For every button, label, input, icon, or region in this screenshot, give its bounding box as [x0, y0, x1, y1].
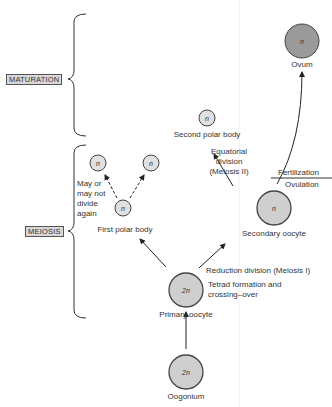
first-polar-body-ploidy: n [121, 205, 125, 212]
polar-daughter-right-ploidy: n [149, 160, 153, 167]
ovulation-label: Ovulation [285, 180, 319, 190]
primary-oocyte-ploidy: 2n [182, 287, 190, 294]
fertilization-label: Fertilization [278, 168, 319, 178]
arrow-primary-to-secondary [199, 244, 225, 268]
ovum-ploidy: n [300, 38, 304, 45]
oogenesis-diagram [0, 0, 332, 407]
oogonium-label: Oogonium [168, 392, 205, 402]
primary-oocyte-label: Primary oocyte [159, 310, 212, 320]
tetrad-note: Tetrad formation and crossing–over [208, 280, 281, 300]
oogonium-ploidy: 2n [182, 369, 190, 376]
second-polar-body-label: Second polar body [174, 130, 241, 140]
second-polar-body-ploidy: n [205, 115, 209, 122]
equatorial-division-note: Equatorial division (Meiosis II) [209, 147, 248, 177]
arrow-first-polar-to-right [130, 175, 144, 198]
secondary-oocyte-label: Secondary oocyte [242, 229, 306, 239]
maturation-bracket [68, 14, 86, 136]
polar-daughter-left-ploidy: n [96, 160, 100, 167]
arrow-first-polar-to-left [105, 175, 117, 198]
arrow-primary-to-first-polar [140, 239, 166, 267]
meiosis-bracket [68, 145, 86, 318]
secondary-oocyte-ploidy: n [272, 205, 276, 212]
may-not-divide-note: May or may not divide again [77, 179, 105, 219]
first-polar-body-label: First polar body [97, 225, 152, 235]
reduction-division-note: Reduction division (Meiosis I) [206, 266, 310, 276]
maturation-stage-label: MATURATION [6, 74, 62, 85]
ovum-label: Ovum [291, 60, 312, 70]
meiosis-stage-label: MEIOSIS [25, 226, 64, 237]
